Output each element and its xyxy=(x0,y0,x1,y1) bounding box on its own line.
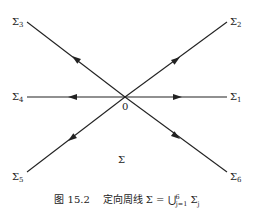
origin-label: 0 xyxy=(122,102,128,112)
arrow-sigma4-icon xyxy=(68,94,77,100)
caption-text: 定向周线 Σ = ⋃ xyxy=(103,194,176,205)
label-sigma1: Σ1 xyxy=(230,92,242,105)
label-sigma2: Σ2 xyxy=(230,17,242,30)
label-sigma3: Σ3 xyxy=(12,17,24,30)
figure-number: 图 15.2 xyxy=(54,194,89,205)
label-sigma6: Σ6 xyxy=(230,172,242,185)
arrow-sigma1-icon xyxy=(173,94,182,100)
figure-caption: 图 15.2 定向周线 Σ = ⋃6j=1 Σj xyxy=(0,191,254,208)
label-sigma5: Σ5 xyxy=(12,172,24,185)
label-sigma4: Σ4 xyxy=(12,92,24,105)
region-label: Σ xyxy=(118,155,125,165)
ray-sigma5 xyxy=(27,97,125,172)
arrow-sigma6-icon xyxy=(171,131,182,141)
